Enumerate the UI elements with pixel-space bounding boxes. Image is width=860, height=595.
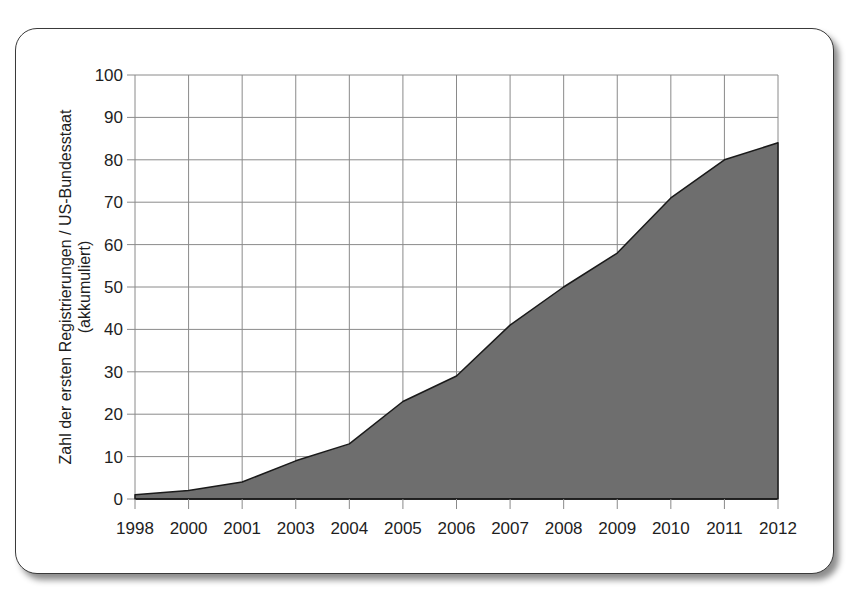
- y-tick-label: 60: [104, 236, 123, 255]
- y-tick-label: 20: [104, 405, 123, 424]
- y-tick-label: 80: [104, 151, 123, 170]
- x-tick-label: 2008: [545, 519, 583, 538]
- y-tick-label: 70: [104, 193, 123, 212]
- y-tick-label: 40: [104, 320, 123, 339]
- x-tick-label: 2001: [223, 519, 261, 538]
- y-tick-label: 50: [104, 278, 123, 297]
- x-tick-label: 2004: [330, 519, 368, 538]
- y-tick-label: 0: [114, 490, 123, 509]
- x-tick-label: 2009: [598, 519, 636, 538]
- x-tick-label: 2005: [384, 519, 422, 538]
- y-tick-label: 10: [104, 448, 123, 467]
- x-tick-label: 2011: [706, 519, 743, 538]
- x-tick-label: 2000: [170, 519, 208, 538]
- x-tick-label: 2012: [759, 519, 797, 538]
- x-axis-tick-labels: 1998200020012003200420052006200720082009…: [116, 519, 797, 538]
- y-axis-tick-labels: 0102030405060708090100: [95, 66, 123, 509]
- x-tick-label: 2006: [438, 519, 476, 538]
- x-tick-label: 2007: [491, 519, 529, 538]
- y-axis-title-line1: Zahl der ersten Registrierungen / US-Bun…: [57, 109, 74, 464]
- x-tick-label: 1998: [116, 519, 154, 538]
- y-tick-label: 30: [104, 363, 123, 382]
- area-chart: 0102030405060708090100 19982000200120032…: [0, 0, 860, 595]
- y-tick-label: 100: [95, 66, 123, 85]
- x-tick-label: 2010: [652, 519, 690, 538]
- y-tick-label: 90: [104, 108, 123, 127]
- y-axis-title-line2: (akkumuliert): [76, 241, 93, 333]
- x-tick-label: 2003: [277, 519, 315, 538]
- x-axis-ticks: [135, 499, 778, 509]
